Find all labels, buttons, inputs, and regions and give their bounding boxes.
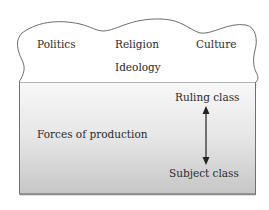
label-ruling-class: Ruling class bbox=[175, 92, 239, 103]
label-forces-of-production: Forces of production bbox=[37, 129, 148, 140]
label-culture: Culture bbox=[196, 39, 236, 50]
label-religion: Religion bbox=[115, 39, 159, 50]
label-politics: Politics bbox=[37, 39, 76, 50]
label-ideology: Ideology bbox=[115, 62, 161, 73]
label-subject-class: Subject class bbox=[169, 168, 239, 179]
